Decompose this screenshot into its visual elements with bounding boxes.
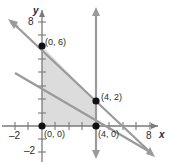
y-tick-label-neg2: –2 bbox=[24, 146, 35, 156]
point-label-0-6: (0, 6) bbox=[45, 38, 66, 47]
x-axis-label: x bbox=[159, 130, 165, 140]
point-4-2-dot bbox=[92, 97, 99, 104]
boundary-line-diagonal bbox=[8, 19, 155, 157]
graph-canvas bbox=[0, 0, 169, 164]
coordinate-plane-figure: x y –2 8 8 –2 (0, 6) (4, 2) (0, 0) (4, 0… bbox=[0, 0, 169, 164]
point-label-4-0: (4, 0) bbox=[98, 130, 119, 139]
x-tick-label-neg2: –2 bbox=[9, 131, 20, 141]
y-tick-label-8: 8 bbox=[28, 17, 34, 27]
point-label-4-2: (4, 2) bbox=[101, 93, 122, 102]
point-label-0-0: (0, 0) bbox=[44, 130, 65, 139]
y-axis-label: y bbox=[33, 6, 39, 16]
x-tick-label-8: 8 bbox=[146, 131, 152, 141]
